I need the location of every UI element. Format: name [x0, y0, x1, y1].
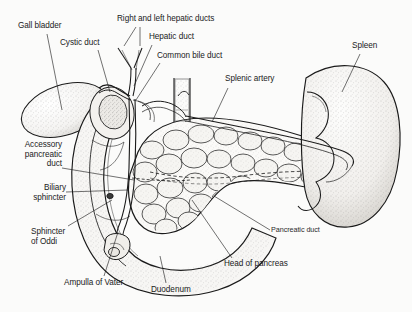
- label-gall-bladder: Gall bladder: [18, 21, 62, 31]
- leader-pancreatic-duct: [214, 196, 270, 230]
- leader-common-bile-duct: [136, 63, 160, 100]
- label-duodenum: Duodenum: [151, 285, 191, 295]
- label-cystic-duct: Cystic duct: [60, 38, 100, 48]
- label-head-of-pancreas: Head of pancreas: [224, 259, 288, 269]
- label-right-and-left-hepatic-ducts: Right and left hepatic ducts: [117, 14, 214, 24]
- leader-hepatic-ducts-left: [124, 27, 136, 46]
- leader-splenic-artery: [212, 88, 228, 122]
- label-spleen: Spleen: [352, 41, 377, 51]
- label-sphincter-of-oddi: Sphincter of Oddi: [31, 227, 65, 246]
- label-biliary-sphincter: Biliary sphincter: [0, 183, 66, 202]
- biliary-sphincter-marker: [107, 193, 113, 198]
- vessel-aorta-trunk: [174, 78, 190, 122]
- label-common-bile-duct: Common bile duct: [157, 51, 222, 61]
- ampulla-of-vater: [109, 248, 120, 257]
- label-ampulla-of-vater: Ampulla of Vater: [64, 278, 123, 288]
- duct-hepatic: [128, 68, 136, 96]
- label-accessory-pancreatic-duct: Accessory pancreatic duct: [0, 140, 62, 169]
- duct-right-left-hepatic: [118, 48, 142, 70]
- label-pancreatic-duct: Pancreatic duct: [271, 226, 320, 234]
- label-splenic-artery: Splenic artery: [225, 74, 274, 84]
- anatomy-diagram-page: Gall bladder Cystic duct Right and left …: [0, 0, 412, 312]
- label-hepatic-duct: Hepatic duct: [149, 32, 194, 42]
- organ-spleen: [296, 56, 408, 234]
- leader-head-of-pancreas: [192, 200, 232, 258]
